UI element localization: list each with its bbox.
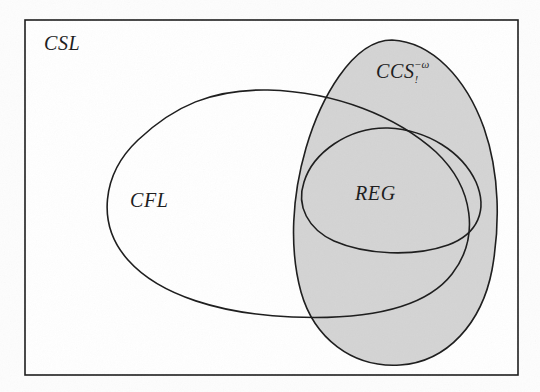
paper-grain-overlay: [0, 0, 540, 392]
figure-root: CSL CFL REG CCS!−ω: [0, 0, 540, 392]
euler-diagram: CSL CFL REG CCS!−ω: [0, 0, 540, 392]
